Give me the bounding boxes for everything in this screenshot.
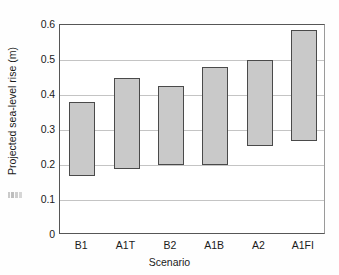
y-tick-label: 0	[49, 228, 55, 240]
gridline	[60, 60, 324, 61]
bar-a2	[247, 60, 273, 146]
x-tick-label: A2	[252, 239, 265, 251]
bar-a1b	[202, 67, 228, 165]
y-axis-title: Projected sea-level rise (m)	[6, 0, 18, 231]
y-tick-label: 0.4	[41, 88, 55, 100]
chart-figure: Projected sea-level rise (m) 00.10.20.30…	[0, 0, 339, 275]
bar-a1fi	[291, 30, 317, 140]
y-tick-label: 0.6	[41, 18, 55, 30]
gridline	[60, 200, 324, 201]
y-tick-label: 0.2	[41, 158, 55, 170]
x-tick-label: A1FI	[292, 239, 314, 251]
x-tick-label: B1	[75, 239, 88, 251]
y-tick-label: 0.5	[41, 53, 55, 65]
bar-b2	[158, 86, 184, 165]
gridline	[60, 95, 324, 96]
gridline	[60, 130, 324, 131]
plot-area	[59, 24, 325, 234]
bar-a1t	[114, 78, 140, 169]
y-tick-label: 0.1	[41, 193, 55, 205]
gridline	[60, 165, 324, 166]
y-tick-label: 0.3	[41, 123, 55, 135]
x-tick-label: B2	[163, 239, 176, 251]
x-axis-title: Scenario	[0, 256, 339, 268]
bar-b1	[69, 102, 95, 176]
x-tick-label: A1B	[204, 239, 224, 251]
x-tick-label: A1T	[116, 239, 135, 251]
